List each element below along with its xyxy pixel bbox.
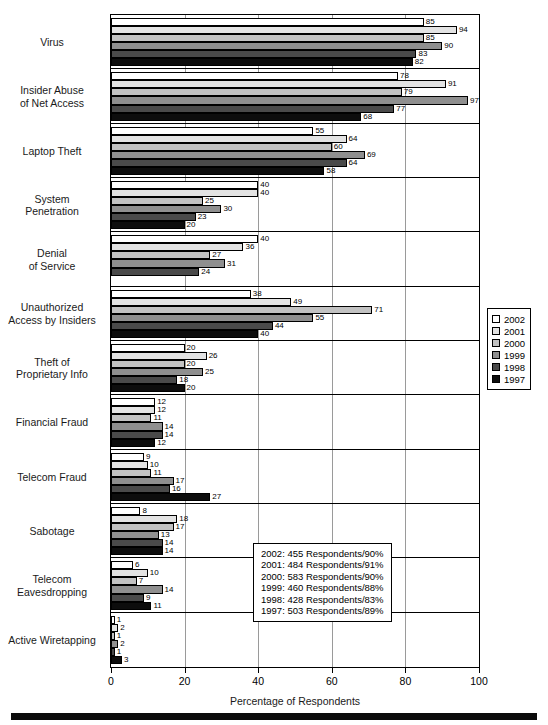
x-tick-mark-20 xyxy=(185,668,186,673)
legend-swatch-icon xyxy=(492,327,500,335)
bar-1998 xyxy=(111,594,144,602)
bar-value-label: 78 xyxy=(398,72,409,80)
bar-2001 xyxy=(111,243,243,251)
bar-row: 97 xyxy=(111,96,479,104)
bar-1999 xyxy=(111,96,468,104)
bar-1998 xyxy=(111,50,416,58)
bar-row: 17 xyxy=(111,477,479,485)
bar-value-label: 71 xyxy=(372,306,383,314)
bar-2002 xyxy=(111,561,133,569)
bar-value-label: 26 xyxy=(207,352,218,360)
legend-swatch-icon xyxy=(492,375,500,383)
category-label-line: Telecom xyxy=(0,573,104,586)
category-group: 91011171627 xyxy=(111,450,479,504)
x-tick-label: 100 xyxy=(470,675,488,687)
bar-row: 16 xyxy=(111,485,479,493)
bar-value-label: 14 xyxy=(163,586,174,594)
category-label: SystemPenetration xyxy=(0,193,104,218)
bar-1997 xyxy=(111,493,210,501)
bar-2001 xyxy=(111,135,347,143)
bar-2000 xyxy=(111,143,332,151)
category-group: 384971554440 xyxy=(111,287,479,341)
bar-value-label: 94 xyxy=(457,26,468,34)
bar-value-label: 25 xyxy=(203,368,214,376)
bar-row: 82 xyxy=(111,58,479,66)
bar-1997 xyxy=(111,547,163,555)
bar-value-label: 20 xyxy=(185,360,196,368)
bar-value-label: 25 xyxy=(203,197,214,205)
category-group: 202620251820 xyxy=(111,341,479,395)
bar-2000 xyxy=(111,34,424,42)
category-label: Sabotage xyxy=(0,525,104,538)
category-label: TelecomEavesdropping xyxy=(0,573,104,598)
x-axis-ticks: 020406080100 xyxy=(110,668,480,694)
bar-row: 2 xyxy=(111,624,479,632)
bar-value-label: 27 xyxy=(210,493,221,501)
bar-1998 xyxy=(111,485,170,493)
bar-row: 69 xyxy=(111,151,479,159)
legend-item-2002[interactable]: 2002 xyxy=(492,313,525,325)
legend-label: 1999 xyxy=(504,350,525,361)
bar-row: 18 xyxy=(111,376,479,384)
category-label-line: Access by Insiders xyxy=(0,314,104,327)
bar-value-label: 31 xyxy=(225,260,236,268)
bar-value-label: 23 xyxy=(196,213,207,221)
legend-item-2000[interactable]: 2000 xyxy=(492,337,525,349)
bar-2000 xyxy=(111,197,203,205)
category-label-line: Active Wiretapping xyxy=(0,634,104,647)
x-tick-label: 20 xyxy=(179,675,191,687)
bar-2002 xyxy=(111,127,313,135)
bar-1997 xyxy=(111,113,361,121)
bar-row: 40 xyxy=(111,189,479,197)
bar-value-label: 3 xyxy=(122,656,128,664)
legend-label: 1997 xyxy=(504,374,525,385)
category-group: 4036273124 xyxy=(111,232,479,286)
category-label: Virus xyxy=(0,36,104,49)
bar-row: 20 xyxy=(111,344,479,352)
bar-row: 1 xyxy=(111,632,479,640)
respondents-line: 1997: 503 Respondents/89% xyxy=(261,605,384,616)
category-label-line: of Net Access xyxy=(0,97,104,110)
category-label-line: of Service xyxy=(0,260,104,273)
bar-value-label: 20 xyxy=(185,221,196,229)
bar-1998 xyxy=(111,376,177,384)
bar-1998 xyxy=(111,539,163,547)
bar-value-label: 91 xyxy=(446,80,457,88)
category-group: 859485908382 xyxy=(111,15,479,69)
category-label: Denialof Service xyxy=(0,247,104,272)
respondents-line: 1999: 460 Respondents/88% xyxy=(261,582,384,593)
legend-swatch-icon xyxy=(492,363,500,371)
bar-row: 78 xyxy=(111,72,479,80)
legend-swatch-icon xyxy=(492,351,500,359)
bar-value-label: 10 xyxy=(148,569,159,577)
bar-row: 2 xyxy=(111,640,479,648)
bar-value-label: 27 xyxy=(210,251,221,259)
bar-1998 xyxy=(111,213,196,221)
legend-item-2001[interactable]: 2001 xyxy=(492,325,525,337)
bar-value-label: 9 xyxy=(144,594,150,602)
bar-value-label: 36 xyxy=(243,243,254,251)
bar-row: 91 xyxy=(111,80,479,88)
bar-row: 64 xyxy=(111,135,479,143)
bar-row: 20 xyxy=(111,221,479,229)
respondents-annotation-box: 2002: 455 Respondents/90%2001: 484 Respo… xyxy=(253,543,392,622)
bar-row: 60 xyxy=(111,143,479,151)
legend-item-1999[interactable]: 1999 xyxy=(492,349,525,361)
bar-row: 24 xyxy=(111,268,479,276)
bar-1997 xyxy=(111,221,185,229)
bar-2000 xyxy=(111,360,185,368)
bar-row: 20 xyxy=(111,360,479,368)
bar-1998 xyxy=(111,159,347,167)
bar-2001 xyxy=(111,461,148,469)
bar-value-label: 1 xyxy=(115,648,121,656)
category-label-line: Insider Abuse xyxy=(0,84,104,97)
bar-row: 49 xyxy=(111,298,479,306)
category-label: UnauthorizedAccess by Insiders xyxy=(0,301,104,326)
bar-value-label: 20 xyxy=(185,344,196,352)
bar-1997 xyxy=(111,384,185,392)
category-group: 556460696458 xyxy=(111,124,479,178)
legend-item-1997[interactable]: 1997 xyxy=(492,373,525,385)
bar-2001 xyxy=(111,406,155,414)
bar-2002 xyxy=(111,72,398,80)
legend-item-1998[interactable]: 1998 xyxy=(492,361,525,373)
